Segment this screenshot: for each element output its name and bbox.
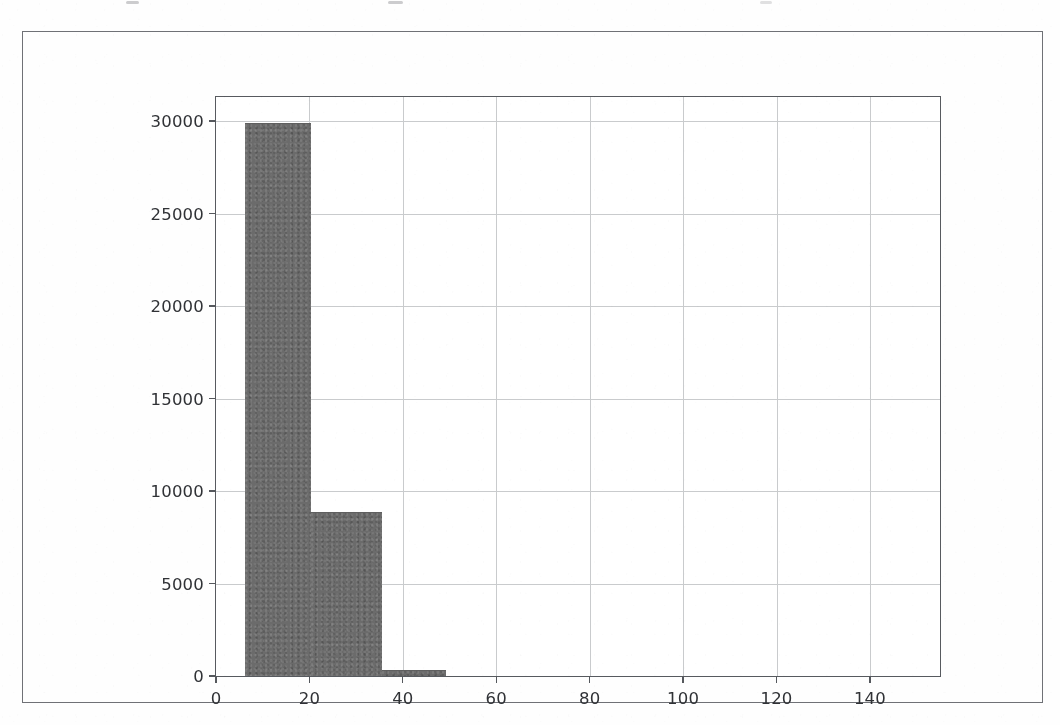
x-tick-label: 100 (667, 689, 699, 708)
x-gridline (870, 97, 871, 676)
plot-inner (216, 97, 940, 676)
scan-artifact (388, 1, 403, 4)
x-tick-label: 0 (211, 689, 222, 708)
y-tick-label: 25000 (151, 204, 205, 223)
scan-artifact (760, 1, 772, 4)
y-gridline (216, 121, 940, 122)
y-tick-mark (209, 213, 216, 214)
x-tick-mark (682, 676, 683, 683)
y-tick-label: 30000 (151, 112, 205, 131)
x-tick-mark (589, 676, 590, 683)
x-tick-mark (309, 676, 310, 683)
histogram-bar (382, 670, 446, 676)
x-tick-label: 120 (760, 689, 792, 708)
y-tick-mark (209, 583, 216, 584)
x-gridline (777, 97, 778, 676)
y-tick-label: 5000 (161, 574, 204, 593)
x-tick-mark (496, 676, 497, 683)
scan-artifact (126, 1, 139, 4)
figure-border: 0500010000150002000025000300000204060801… (22, 31, 1043, 703)
x-tick-mark (869, 676, 870, 683)
x-gridline (683, 97, 684, 676)
y-tick-mark (209, 120, 216, 121)
x-tick-label: 60 (486, 689, 507, 708)
y-gridline (216, 306, 940, 307)
x-tick-label: 140 (854, 689, 886, 708)
y-tick-mark (209, 490, 216, 491)
x-gridline (496, 97, 497, 676)
y-gridline (216, 399, 940, 400)
x-tick-mark (776, 676, 777, 683)
histogram-bar (311, 512, 382, 676)
y-tick-label: 10000 (151, 482, 205, 501)
x-tick-label: 80 (579, 689, 600, 708)
x-tick-label: 20 (299, 689, 320, 708)
x-tick-mark (402, 676, 403, 683)
x-tick-mark (215, 676, 216, 683)
x-gridline (403, 97, 404, 676)
x-tick-label: 40 (392, 689, 413, 708)
y-tick-label: 0 (193, 667, 204, 686)
y-tick-mark (209, 398, 216, 399)
histogram-bar (245, 123, 311, 676)
x-gridline (590, 97, 591, 676)
y-tick-label: 20000 (151, 297, 205, 316)
y-tick-label: 15000 (151, 389, 205, 408)
y-tick-mark (209, 305, 216, 306)
scanned-page: 0500010000150002000025000300000204060801… (0, 0, 1060, 725)
y-gridline (216, 214, 940, 215)
histogram-plot-area: 0500010000150002000025000300000204060801… (215, 96, 941, 677)
y-gridline (216, 491, 940, 492)
